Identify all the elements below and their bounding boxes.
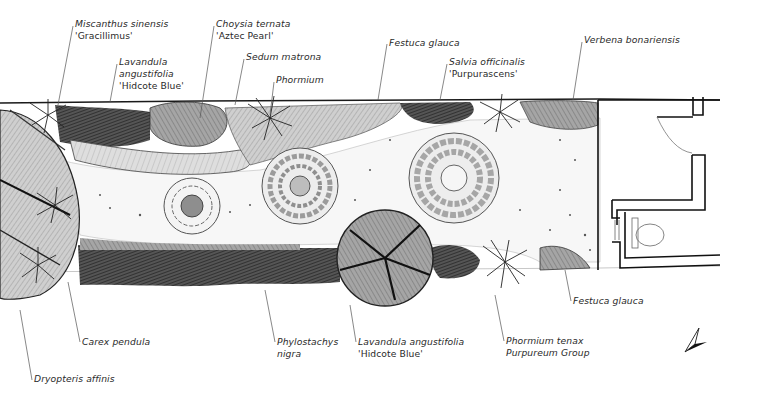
label-phormium: Phormium	[276, 74, 324, 86]
species-name: Dryopteris affinis	[34, 373, 115, 385]
cultivar-name: 'Gracillimus'	[75, 30, 168, 42]
cultivar-name: 'Hidcote Blue'	[119, 80, 184, 92]
label-lavandula-bottom: Lavandula angustifolia 'Hidcote Blue'	[358, 336, 464, 360]
paving-circle-large	[409, 133, 499, 223]
label-festuca-top: Festuca glauca	[389, 37, 460, 49]
species-name: Choysia ternata	[216, 18, 290, 30]
label-lavandula-top: Lavandula angustifolia 'Hidcote Blue'	[119, 56, 184, 92]
species-name: Phormium	[276, 74, 324, 86]
cultivar-name: Purpureum Group	[506, 347, 590, 359]
cultivar-name: 'Hidcote Blue'	[358, 348, 464, 360]
species-name: Salvia officinalis	[449, 56, 525, 68]
species-name: Lavandula	[119, 56, 184, 68]
label-dryopteris: Dryopteris affinis	[34, 373, 115, 385]
species-name: Festuca glauca	[389, 37, 460, 49]
wc-fixture	[615, 218, 664, 248]
species-name: Sedum matrona	[246, 51, 321, 63]
cultivar-name: 'Purpurascens'	[449, 68, 525, 80]
species-name: angustifolia	[119, 68, 184, 80]
label-choysia: Choysia ternata 'Aztec Pearl'	[216, 18, 290, 42]
label-verbena: Verbena bonariensis	[584, 34, 680, 46]
outbuilding	[598, 97, 720, 270]
paving-circle-small	[164, 178, 220, 234]
label-sedum: Sedum matrona	[246, 51, 321, 63]
label-festuca-bottom: Festuca glauca	[573, 295, 644, 307]
north-arrow-icon	[685, 328, 707, 352]
species-name: Festuca glauca	[573, 295, 644, 307]
species-name: nigra	[277, 348, 338, 360]
species-name: Phormium tenax	[506, 335, 590, 347]
species-name: Verbena bonariensis	[584, 34, 680, 46]
species-name: Carex pendula	[82, 336, 150, 348]
label-salvia: Salvia officinalis 'Purpurascens'	[449, 56, 525, 80]
label-miscanthus: Miscanthus sinensis 'Gracillimus'	[75, 18, 168, 42]
label-phylostachys: Phylostachys nigra	[277, 336, 338, 360]
lavandula-tree-bottom	[337, 210, 433, 306]
species-name: Lavandula angustifolia	[358, 336, 464, 348]
cultivar-name: 'Aztec Pearl'	[216, 30, 290, 42]
paving-circle-medium	[262, 148, 338, 224]
label-phormium-tenax: Phormium tenax Purpureum Group	[506, 335, 590, 359]
species-name: Miscanthus sinensis	[75, 18, 168, 30]
label-carex: Carex pendula	[82, 336, 150, 348]
species-name: Phylostachys	[277, 336, 338, 348]
